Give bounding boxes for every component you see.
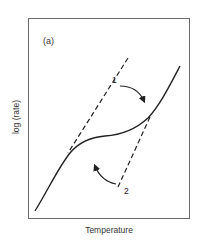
rate-curve (35, 66, 180, 211)
arrow-2-icon (95, 166, 116, 184)
panel-label: (a) (43, 36, 54, 46)
x-axis-label: Temperature (28, 225, 190, 235)
plot-graphics (0, 0, 203, 240)
y-axis-label: log (rate) (11, 87, 21, 147)
marker-label-2: 2 (124, 186, 129, 196)
figure: (a) log (rate) Temperature 1 2 (0, 0, 203, 240)
marker-label-1: 1 (112, 75, 117, 85)
arrow-1-icon (120, 86, 144, 101)
dashed-line-1 (68, 58, 128, 153)
